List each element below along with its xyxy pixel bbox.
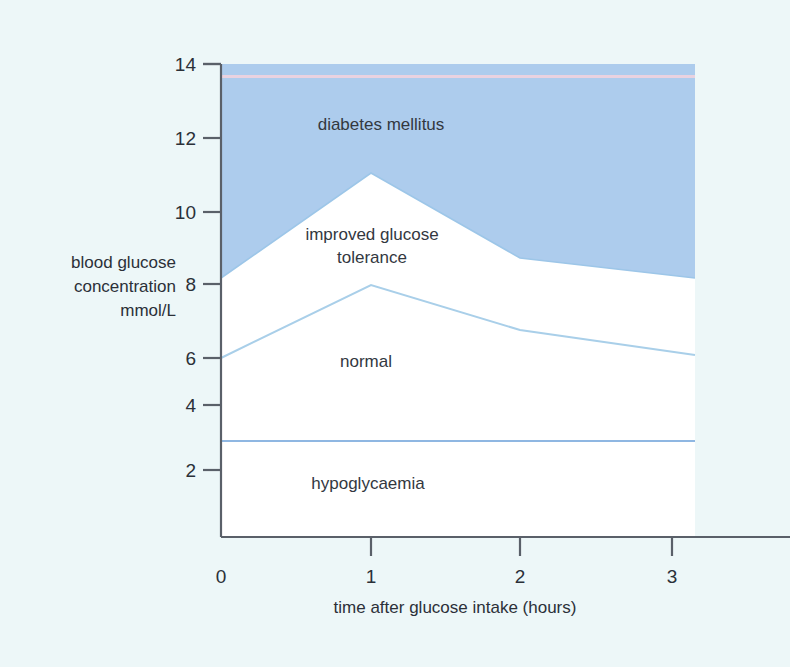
y-tick-label-10: 10	[175, 202, 196, 223]
pink-artifact-line	[221, 75, 695, 78]
region-label-normal: normal	[340, 352, 392, 371]
x-tick-label-1: 1	[366, 566, 377, 587]
region-label-diabetes: diabetes mellitus	[318, 115, 445, 134]
x-tick-label-3: 3	[667, 566, 678, 587]
chart-svg: 14 12 10 8 6 4 2 0 1 2 3 time after gluc…	[0, 0, 790, 667]
y-axis-title-line-3: mmol/L	[120, 301, 176, 320]
x-axis-title: time after glucose intake (hours)	[334, 598, 577, 617]
y-axis-title-line-2: concentration	[74, 277, 176, 296]
region-label-improved-line-2: tolerance	[337, 248, 407, 267]
y-tick-label-6: 6	[185, 348, 196, 369]
y-tick-label-8: 8	[185, 274, 196, 295]
y-tick-label-2: 2	[185, 460, 196, 481]
region-label-hypoglycaemia: hypoglycaemia	[311, 474, 425, 493]
y-axis-title-line-1: blood glucose	[71, 253, 176, 272]
x-tick-label-2: 2	[515, 566, 526, 587]
y-tick-label-14: 14	[175, 54, 197, 75]
y-tick-label-4: 4	[185, 395, 196, 416]
x-tick-label-0: 0	[216, 566, 227, 587]
glucose-tolerance-figure: 14 12 10 8 6 4 2 0 1 2 3 time after gluc…	[0, 0, 790, 667]
y-tick-label-12: 12	[175, 128, 196, 149]
region-label-improved-line-1: improved glucose	[305, 225, 438, 244]
